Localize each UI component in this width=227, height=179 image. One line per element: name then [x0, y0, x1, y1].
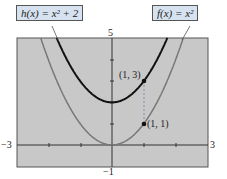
h-function-label: h(x) = x² + 2 [16, 5, 83, 21]
chart-canvas [0, 0, 227, 179]
point-1-1 [142, 122, 147, 127]
y-max-label: 5 [108, 27, 113, 38]
x-max-label: 3 [210, 139, 215, 150]
x-min-label: −3 [1, 139, 12, 150]
point-1-3 [142, 79, 147, 84]
f-function-label: f(x) = x² [152, 5, 198, 21]
point-label-1-1: (1, 1) [147, 118, 169, 129]
y-min-label: −1 [103, 166, 114, 177]
point-label-1-3: (1, 3) [119, 69, 141, 80]
